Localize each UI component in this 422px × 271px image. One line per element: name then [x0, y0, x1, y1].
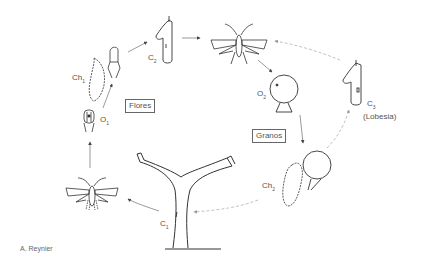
- stage-label-c2: C2: [148, 54, 157, 64]
- credit-text: A. Reynier: [20, 245, 53, 252]
- larva-icon: [89, 58, 104, 101]
- stage-label-c3: C3: [367, 100, 376, 110]
- stage-label-o1: O1: [100, 116, 109, 126]
- larva-icon: [283, 163, 303, 206]
- berry-icon: [303, 151, 331, 190]
- stage-label-ch1: Ch1: [72, 74, 85, 84]
- chrysalis-icon: [343, 60, 361, 105]
- grains-box: Granos: [252, 129, 286, 143]
- stage-label-o2: O2: [257, 90, 266, 100]
- flowers-box: Flores: [125, 99, 155, 113]
- flower-bud-icon: [108, 47, 120, 78]
- moth-icon: [211, 24, 267, 64]
- berry-egg-icon: [270, 75, 298, 112]
- lifecycle-diagram: [0, 0, 422, 271]
- flower-bud-egg-icon: [84, 110, 94, 132]
- stage-label-ch2: Ch2: [262, 182, 275, 192]
- moth-icon: [66, 178, 118, 210]
- stage-label-c1: C1: [160, 220, 169, 230]
- chrysalis-icon: [156, 16, 172, 63]
- c3-note: (Lobesia): [363, 113, 396, 121]
- vine-trunk-icon: [137, 153, 235, 249]
